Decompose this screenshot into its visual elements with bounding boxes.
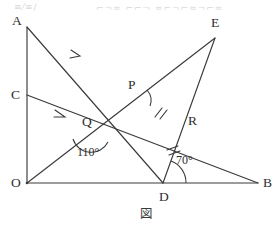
angle-label-70: 70° [176,154,193,166]
vertex-dot-O [26,182,29,185]
segment-AD [27,27,163,183]
vertex-label-O: O [11,176,21,190]
vertex-label-C: C [11,88,20,102]
vertex-label-B: B [263,176,272,190]
parallel-arrow-CB [54,110,65,117]
vertex-label-P: P [128,78,136,92]
vertex-label-D: D [159,190,169,204]
figure-canvas [0,0,278,229]
vertex-label-A: A [12,14,22,28]
figure-caption: 図 [140,208,153,221]
geometry-figure: ≡⁄≡∕ ⌐¬≈ ⌐⌐¬ ≈⌐¬⌐≈¬⌐≈ [0,0,278,229]
tick-marks-PR [155,108,167,119]
vertex-label-E: E [211,16,219,30]
vertex-label-Q: Q [82,115,92,129]
angle-label-110: 110° [77,146,99,158]
vertex-label-R: R [188,114,197,128]
segment-CB [27,95,258,183]
parallel-arrow-AD [70,50,80,58]
angle-arc-P [147,90,151,106]
